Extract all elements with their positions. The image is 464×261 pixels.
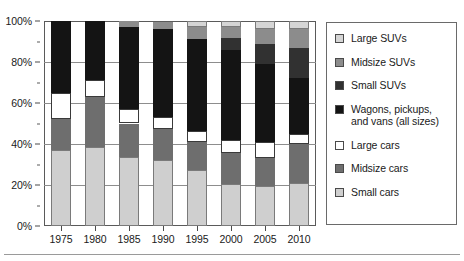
bar-segment (153, 22, 173, 29)
y-tick-minor (37, 123, 40, 124)
legend-item[interactable]: Small cars (335, 186, 451, 199)
chart-figure: 0%20%40%60%80%100% 197519801985199019952… (0, 0, 464, 261)
y-tick-minor (37, 164, 40, 165)
bar-segment (255, 29, 275, 43)
y-tick-mark (35, 21, 40, 22)
bar-segment (289, 21, 309, 29)
plot-area (44, 21, 316, 226)
bar-segment (221, 140, 241, 153)
legend-item[interactable]: Midsize SUVs (335, 56, 451, 69)
bar-segment (187, 142, 207, 170)
legend-swatch-icon (335, 58, 344, 67)
x-tick-label-2000: 2000 (220, 233, 243, 245)
y-tick-label: 100% (6, 15, 32, 27)
bar-segment (289, 29, 309, 47)
bar-segment (289, 183, 309, 226)
y-tick-label: 60% (11, 97, 32, 109)
bars-layer (44, 21, 316, 226)
x-tick-label-1980: 1980 (84, 233, 107, 245)
bar-segment (153, 129, 173, 161)
x-tick-mark (231, 226, 232, 231)
legend-label: Midsize SUVs (351, 56, 415, 69)
x-tick-label-1990: 1990 (152, 233, 175, 245)
bar-segment (221, 184, 241, 226)
bar-segment (51, 21, 71, 93)
bar-segment (119, 21, 139, 27)
bar-segment (85, 97, 105, 147)
bar-1980 (85, 21, 105, 226)
y-tick-label: 40% (11, 138, 32, 150)
bar-1985 (119, 21, 139, 226)
bar-segment (221, 50, 241, 140)
x-tick-mark (95, 226, 96, 231)
x-tick-label-2010: 2010 (288, 233, 311, 245)
y-tick-mark (35, 103, 40, 104)
legend-item[interactable]: Large cars (335, 139, 451, 152)
y-tick-mark (35, 62, 40, 63)
legend-label: Midsize cars (351, 162, 408, 175)
y-tick-label: 80% (11, 56, 32, 68)
bar-segment (187, 21, 207, 27)
legend-item[interactable]: Large SUVs (335, 32, 451, 45)
bar-segment (51, 119, 71, 150)
bar-segment (119, 27, 139, 109)
legend-swatch-icon (335, 81, 344, 90)
legend-label: Large SUVs (351, 32, 407, 45)
legend-item[interactable]: Midsize cars (335, 162, 451, 175)
bar-segment (255, 21, 275, 29)
bar-segment (187, 170, 207, 226)
bar-segment (255, 158, 275, 186)
bar-segment (85, 147, 105, 226)
x-tick-mark (299, 226, 300, 231)
legend-label: Large cars (351, 139, 400, 152)
x-tick-mark (197, 226, 198, 231)
y-tick-mark (35, 226, 40, 227)
bar-segment (289, 78, 309, 133)
bar-segment (119, 124, 139, 158)
y-tick-label: 0% (17, 220, 32, 232)
legend-items: Large SUVsMidsize SUVsSmall SUVsWagons, … (335, 32, 451, 209)
bar-segment (51, 150, 71, 226)
bar-segment (119, 157, 139, 226)
bar-segment (289, 144, 309, 183)
y-tick-mark (35, 144, 40, 145)
bar-segment (221, 153, 241, 184)
legend-item[interactable]: Small SUVs (335, 79, 451, 92)
bar-segment (153, 117, 173, 128)
x-tick-mark (265, 226, 266, 231)
legend-label: Wagons, pickups, and vans (all sizes) (351, 103, 451, 128)
legend-label: Small cars (351, 186, 399, 199)
legend-swatch-icon (335, 188, 344, 197)
bar-segment (85, 21, 105, 80)
x-tick-label-2005: 2005 (254, 233, 277, 245)
y-tick-label: 20% (11, 179, 32, 191)
bar-1975 (51, 21, 71, 226)
bar-2010 (289, 21, 309, 226)
legend-label: Small SUVs (351, 79, 406, 92)
bar-1990 (153, 21, 173, 226)
x-tick-label-1985: 1985 (118, 233, 141, 245)
bar-segment (221, 21, 241, 27)
legend-item[interactable]: Wagons, pickups, and vans (all sizes) (335, 103, 451, 128)
y-tick-minor (37, 205, 40, 206)
legend-swatch-icon (335, 34, 344, 43)
bar-segment (255, 186, 275, 226)
bar-1995 (187, 21, 207, 226)
y-tick-minor (37, 41, 40, 42)
bar-segment (153, 160, 173, 226)
x-tick-mark (129, 226, 130, 231)
bar-segment (85, 80, 105, 96)
bar-2000 (221, 21, 241, 226)
bar-2005 (255, 21, 275, 226)
bar-segment (51, 93, 71, 120)
bar-segment (255, 44, 275, 65)
y-axis: 0%20%40%60%80%100% (0, 21, 40, 226)
bar-segment (289, 134, 309, 144)
bar-segment (119, 109, 139, 123)
bar-segment (221, 27, 241, 38)
legend-swatch-icon (335, 105, 344, 114)
legend-swatch-icon (335, 141, 344, 150)
y-tick-mark (35, 185, 40, 186)
x-tick-mark (163, 226, 164, 231)
x-tick-label-1975: 1975 (50, 233, 73, 245)
